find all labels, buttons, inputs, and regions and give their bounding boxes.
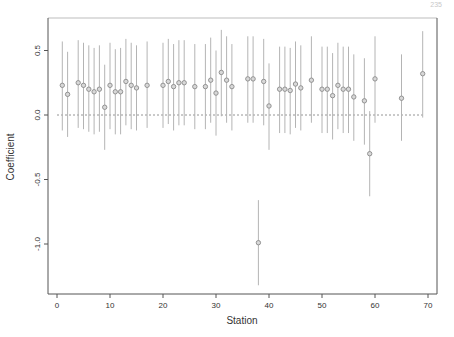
y-axis: -1.0-0.50.00.5 xyxy=(33,44,48,251)
data-point xyxy=(60,83,64,87)
data-point xyxy=(251,77,255,81)
error-bars xyxy=(62,30,422,285)
x-tick-label: 60 xyxy=(371,301,380,310)
data-point xyxy=(118,90,122,94)
data-point xyxy=(166,79,170,83)
coefficient-by-station-chart: 010203040506070 -1.0-0.50.00.5 Station C… xyxy=(0,0,454,337)
data-point xyxy=(193,84,197,88)
y-axis-label: Coefficient xyxy=(5,133,16,180)
data-point xyxy=(320,87,324,91)
data-point xyxy=(81,83,85,87)
data-point xyxy=(113,90,117,94)
data-point xyxy=(262,79,266,83)
x-tick-label: 20 xyxy=(159,301,168,310)
x-tick-label: 50 xyxy=(318,301,327,310)
x-tick-label: 10 xyxy=(106,301,115,310)
data-point xyxy=(283,87,287,91)
data-point xyxy=(309,78,313,82)
data-point xyxy=(214,91,218,95)
x-tick-label: 70 xyxy=(424,301,433,310)
data-point xyxy=(145,83,149,87)
data-point xyxy=(246,77,250,81)
data-point xyxy=(129,83,133,87)
data-point xyxy=(87,87,91,91)
x-axis-label: Station xyxy=(226,315,257,326)
x-tick-label: 0 xyxy=(55,301,60,310)
data-point xyxy=(325,87,329,91)
data-point xyxy=(171,84,175,88)
data-point xyxy=(203,84,207,88)
data-point xyxy=(341,87,345,91)
data-point xyxy=(256,241,260,245)
data-point xyxy=(76,81,80,85)
plot-frame xyxy=(48,18,437,294)
data-point xyxy=(219,70,223,74)
data-point xyxy=(224,78,228,82)
data-point xyxy=(124,79,128,83)
data-point xyxy=(346,87,350,91)
data-point xyxy=(134,86,138,90)
data-point xyxy=(373,77,377,81)
data-point xyxy=(299,86,303,90)
data-point xyxy=(103,105,107,109)
data-point xyxy=(209,78,213,82)
data-point xyxy=(362,99,366,103)
data-point xyxy=(97,87,101,91)
x-axis: 010203040506070 xyxy=(55,294,433,310)
data-point xyxy=(161,83,165,87)
y-tick-label: 0.0 xyxy=(33,109,42,121)
data-point xyxy=(267,104,271,108)
data-point xyxy=(182,81,186,85)
data-point xyxy=(421,72,425,76)
data-point xyxy=(368,152,372,156)
data-point xyxy=(330,93,334,97)
x-tick-label: 40 xyxy=(265,301,274,310)
data-point xyxy=(288,88,292,92)
data-point xyxy=(65,92,69,96)
data-point xyxy=(399,96,403,100)
y-tick-label: 0.5 xyxy=(33,44,42,56)
data-point xyxy=(92,90,96,94)
data-point xyxy=(277,87,281,91)
data-point xyxy=(352,95,356,99)
data-point xyxy=(177,81,181,85)
data-point xyxy=(336,83,340,87)
data-point xyxy=(108,83,112,87)
data-point xyxy=(230,84,234,88)
x-tick-label: 30 xyxy=(212,301,221,310)
data-point xyxy=(293,82,297,86)
y-tick-label: -0.5 xyxy=(33,172,42,186)
y-tick-label: -1.0 xyxy=(33,237,42,251)
